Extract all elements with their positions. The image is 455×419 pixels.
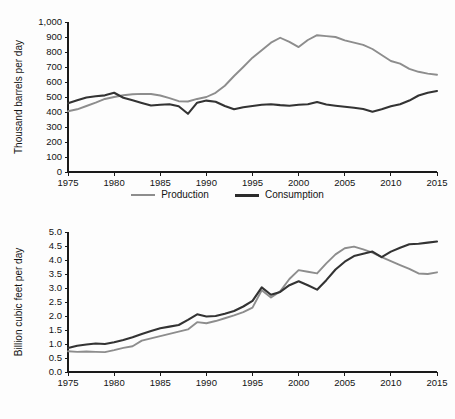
- x-tick-label: 1980: [104, 177, 125, 188]
- x-tick-label: 1985: [150, 377, 171, 388]
- x-tick-label: 2005: [334, 177, 355, 188]
- series-line-consumption: [68, 242, 437, 348]
- y-tick-label: 5.0: [49, 226, 62, 237]
- legend-item-consumption: Consumption: [235, 190, 324, 200]
- y-tick-label: 4.0: [49, 254, 62, 265]
- y-tick-label: 1,000: [38, 16, 62, 27]
- oil-chart-plot: 01002003004005006007008009001,0001975198…: [0, 0, 455, 190]
- x-tick-label: 1995: [242, 177, 263, 188]
- x-tick-label: 2000: [288, 377, 309, 388]
- x-tick-label: 1975: [57, 377, 78, 388]
- legend-item-production: Production: [131, 190, 209, 200]
- y-tick-label: 3.5: [49, 268, 62, 279]
- y-tick-label: 0: [57, 166, 62, 177]
- chart-page: 01002003004005006007008009001,0001975198…: [0, 0, 455, 419]
- x-tick-label: 2010: [380, 177, 401, 188]
- y-axis-title: Thousand barrels per day: [13, 40, 24, 154]
- x-tick-label: 1990: [196, 377, 217, 388]
- legend-label-production: Production: [161, 190, 209, 200]
- y-tick-label: 100: [46, 151, 62, 162]
- x-tick-label: 2010: [380, 377, 401, 388]
- y-axis-title: Billion cubic feet per day: [13, 248, 24, 356]
- y-tick-label: 200: [46, 136, 62, 147]
- oil-chart-panel: 01002003004005006007008009001,0001975198…: [0, 0, 455, 210]
- x-tick-label: 1985: [150, 177, 171, 188]
- y-tick-label: 500: [46, 91, 62, 102]
- x-tick-label: 2000: [288, 177, 309, 188]
- y-tick-label: 900: [46, 31, 62, 42]
- y-tick-label: 400: [46, 106, 62, 117]
- y-tick-label: 300: [46, 121, 62, 132]
- y-tick-label: 4.5: [49, 240, 62, 251]
- series-line-production: [68, 35, 437, 111]
- y-tick-label: 2.0: [49, 310, 62, 321]
- legend-label-consumption: Consumption: [265, 190, 324, 200]
- x-tick-label: 1995: [242, 377, 263, 388]
- y-tick-label: 2.5: [49, 296, 62, 307]
- y-tick-label: 3.0: [49, 282, 62, 293]
- x-tick-label: 1980: [104, 377, 125, 388]
- oil-chart-legend: Production Consumption: [0, 190, 455, 200]
- legend-line-consumption-icon: [235, 194, 259, 197]
- x-tick-label: 1975: [57, 177, 78, 188]
- y-tick-label: 600: [46, 76, 62, 87]
- y-tick-label: 0.5: [49, 352, 62, 363]
- y-tick-label: 0.0: [49, 366, 62, 377]
- gas-chart-panel: 0.00.51.01.52.02.53.03.54.04.55.01975198…: [0, 210, 455, 419]
- y-tick-label: 1.5: [49, 324, 62, 335]
- y-tick-label: 1.0: [49, 338, 62, 349]
- gas-chart-plot: 0.00.51.01.52.02.53.03.54.04.55.01975198…: [0, 210, 455, 399]
- x-tick-label: 2015: [426, 377, 447, 388]
- x-tick-label: 2005: [334, 377, 355, 388]
- x-tick-label: 1990: [196, 177, 217, 188]
- y-tick-label: 800: [46, 46, 62, 57]
- y-tick-label: 700: [46, 61, 62, 72]
- legend-line-production-icon: [131, 194, 155, 196]
- x-tick-label: 2015: [426, 177, 447, 188]
